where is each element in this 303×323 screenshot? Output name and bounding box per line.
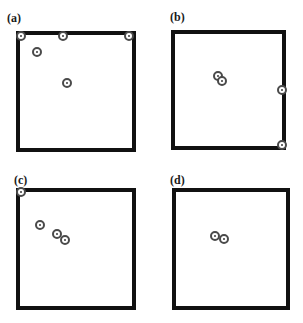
panel-box-d <box>172 188 290 310</box>
ring-marker-icon <box>277 85 287 95</box>
ring-marker-icon <box>16 31 26 41</box>
ring-marker-icon <box>217 76 227 86</box>
ring-marker-icon <box>58 31 68 41</box>
ring-marker-icon <box>62 78 72 88</box>
panel-label-b: (b) <box>170 11 185 23</box>
panel-label-c: (c) <box>14 174 27 186</box>
ring-marker-icon <box>219 234 229 244</box>
panel-label-a: (a) <box>7 12 21 24</box>
ring-marker-icon <box>32 47 42 57</box>
ring-marker-icon <box>277 140 287 150</box>
panel-box-b <box>171 30 286 150</box>
ring-marker-icon <box>60 235 70 245</box>
ring-marker-icon <box>35 220 45 230</box>
ring-marker-icon <box>16 187 26 197</box>
ring-marker-icon <box>124 31 134 41</box>
panel-label-d: (d) <box>170 174 185 186</box>
panel-box-c <box>16 188 136 310</box>
